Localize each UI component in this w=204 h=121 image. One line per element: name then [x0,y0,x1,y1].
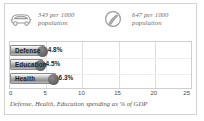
bar-value-health: 6.3% [59,74,74,81]
bar-education[interactable]: Education [10,59,43,70]
car-icon [8,9,34,29]
bar-row: Health [10,73,56,84]
stat-item-telephones: 647 per 1000 population [102,9,168,29]
bar-end-marker [48,74,59,85]
stat-value-telephones: 647 per 1000 population [132,11,168,26]
bar-label-health: Health [15,75,35,82]
x-axis: 0510152025 [9,90,192,99]
chart-caption: Defense, Health, Education spending as %… [10,100,196,107]
telephone-icon [102,9,128,29]
gridline [155,42,156,88]
gridline [119,42,120,88]
bar-value-defense: 4.8% [48,46,63,53]
gridline [82,42,83,88]
x-tick-label: 5 [44,90,47,96]
bar-chart: Defense4.8%Education4.5%Health6.3% [9,41,192,89]
x-tick-label: 15 [114,90,121,96]
bar-value-education: 4.5% [46,60,61,67]
bar-row: Education [10,59,43,70]
stat-item-vehicles: 343 per 1000 population [8,9,102,29]
x-tick-label: 20 [150,90,157,96]
bar-row: Defense [10,45,45,56]
stat-value-vehicles: 343 per 1000 population [38,11,74,26]
x-tick-label: 0 [9,90,12,96]
infographic-panel: 343 per 1000 population 647 per 1000 pop… [0,0,204,121]
x-tick-label: 10 [78,90,85,96]
x-tick-label: 25 [183,90,190,96]
bar-defense[interactable]: Defense [10,45,45,56]
stats-row: 343 per 1000 population 647 per 1000 pop… [8,9,194,37]
bar-health[interactable]: Health [10,73,56,84]
plot-area: Defense4.8%Education4.5%Health6.3% [9,41,192,89]
bar-label-defense: Defense [15,47,41,54]
bar-label-education: Education [15,61,47,68]
